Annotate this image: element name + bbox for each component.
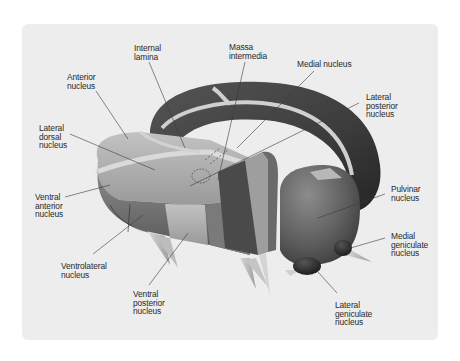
label-ventral-posterior-nucleus: Ventral posterior nucleus (133, 290, 165, 316)
label-ventral-anterior-nucleus: Ventral anterior nucleus (35, 193, 63, 219)
label-medial-nucleus: Medial nucleus (297, 60, 351, 69)
label-anterior-nucleus: Anterior nucleus (67, 73, 96, 90)
label-pulvinar-nucleus: Pulvinar nucleus (391, 185, 420, 202)
label-internal-lamina: Internal lamina (134, 44, 161, 61)
label-ventrolateral-nucleus: Ventrolateral nucleus (61, 262, 107, 279)
medial-geniculate-shape (334, 240, 352, 256)
label-massa-intermedia: Massa intermedia (229, 43, 267, 60)
lateral-geniculate-shape (293, 257, 321, 275)
label-medial-geniculate-nucleus: Medial geniculate nucleus (391, 232, 428, 258)
label-lateral-geniculate-nucleus: Lateral geniculate nucleus (335, 301, 372, 327)
label-lateral-dorsal-nucleus: Lateral dorsal nucleus (39, 124, 67, 150)
label-lateral-posterior-nucleus: Lateral posterior nucleus (366, 93, 398, 119)
